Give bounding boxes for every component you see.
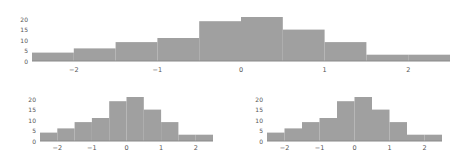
x-tick-label: 2 <box>194 144 198 152</box>
histogram-bar <box>302 122 320 141</box>
x-tick-label: 1 <box>387 144 391 152</box>
histogram-bar <box>366 55 408 61</box>
y-tick-label: 0 <box>259 138 263 145</box>
histogram-bar <box>92 118 109 141</box>
histogram-bar <box>196 135 213 141</box>
histogram-figure: 05101520−2−1012 05101520−2−1012 05101520… <box>0 0 470 158</box>
x-tick-label: 1 <box>159 144 163 152</box>
x-tick-label: 0 <box>239 66 243 74</box>
histogram-bar <box>109 101 126 141</box>
histogram-bar <box>267 133 285 141</box>
x-tick-label: −2 <box>69 66 79 74</box>
histogram-bar <box>355 97 373 141</box>
x-tick-label: −1 <box>315 144 325 152</box>
histogram-bar <box>285 128 303 141</box>
histogram-bar <box>337 101 355 141</box>
y-tick-label: 20 <box>28 96 36 103</box>
y-tick-label: 5 <box>32 127 36 134</box>
histogram-bar <box>178 135 195 141</box>
x-tick-label: 0 <box>352 144 356 152</box>
histogram-bar <box>407 135 425 141</box>
x-tick-label: 2 <box>422 144 426 152</box>
y-tick-label: 15 <box>28 106 36 113</box>
histogram-bar <box>425 135 443 141</box>
x-tick-label: 0 <box>124 144 128 152</box>
x-tick-label: 2 <box>406 66 410 74</box>
x-tick-label: −2 <box>280 144 290 152</box>
histogram-bar <box>325 42 367 61</box>
y-tick-label: 5 <box>259 127 263 134</box>
histogram-bar <box>390 122 408 141</box>
histogram-bar <box>127 97 144 141</box>
x-tick-label: −2 <box>53 144 63 152</box>
y-tick-label: 20 <box>255 96 263 103</box>
y-tick-label: 0 <box>32 138 36 145</box>
histogram-bar <box>283 30 325 61</box>
y-tick-label: 5 <box>24 47 28 54</box>
histogram-bar <box>144 110 161 141</box>
x-tick-label: 1 <box>323 66 327 74</box>
histogram-bar <box>116 42 158 61</box>
x-tick-label: −1 <box>87 144 97 152</box>
y-tick-label: 10 <box>255 117 263 124</box>
histogram-bar <box>74 48 116 61</box>
histogram-bar <box>157 38 199 61</box>
histogram-bar <box>320 118 338 141</box>
histogram-bar <box>161 122 178 141</box>
histogram-bar <box>75 122 92 141</box>
histogram-bar <box>241 17 283 61</box>
histogram-bar <box>32 53 74 61</box>
histogram-bar <box>408 55 450 61</box>
histogram-bottom-left: 05101520−2−1012 <box>28 96 213 152</box>
y-tick-label: 10 <box>20 37 28 44</box>
histogram-bar <box>40 133 57 141</box>
x-tick-label: −1 <box>153 66 163 74</box>
histogram-bar <box>57 128 74 141</box>
y-tick-label: 20 <box>20 16 28 23</box>
y-tick-label: 10 <box>28 117 36 124</box>
histogram-top: 05101520−2−1012 <box>20 16 450 74</box>
histogram-bar <box>199 21 241 61</box>
histogram-bottom-right: 05101520−2−1012 <box>255 96 442 152</box>
y-tick-label: 0 <box>24 58 28 65</box>
y-tick-label: 15 <box>255 106 263 113</box>
y-tick-label: 15 <box>20 26 28 33</box>
histogram-bar <box>372 110 390 141</box>
